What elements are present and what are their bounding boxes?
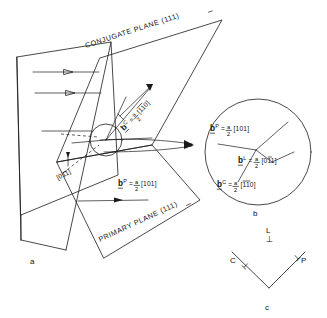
inset-burgers-lock-frac-denominator: 2	[255, 163, 258, 169]
burgers-primary-frac-denominator: 2	[135, 186, 138, 192]
panel-a-label: a	[30, 257, 35, 266]
svg-text:bP =: bP =	[118, 178, 133, 188]
inset-burgers-conjugate-frac-numerator: a	[234, 180, 238, 186]
inset-burgers-lock-label: bL = a 2 [011]	[238, 155, 277, 169]
svg-text:bL =: bL =	[238, 155, 253, 165]
inset-burgers-conjugate-bracket: [110]	[241, 181, 256, 189]
inset-burgers-lock-bracket: [011]	[262, 157, 277, 165]
dislocation-dashed-segment	[61, 134, 98, 137]
inset-burgers-primary-frac-denominator: 2	[227, 131, 230, 137]
inset-burgers-conjugate-frac-denominator: 2	[234, 187, 237, 193]
inset-burgers-primary-frac-numerator: a	[227, 124, 231, 130]
figure-canvas: CONJUGATE PLANE (111) PRIMARY PLANE (111…	[0, 0, 327, 318]
panel-b-group: bP = a 2 [101] bL = a 2 [011]	[205, 99, 311, 218]
inset-burgers-conjugate-label: bC = a 2 [110]	[217, 179, 256, 193]
conjugate-plane-overbar	[209, 11, 213, 12]
panel-c-conjugate-label: C	[230, 256, 236, 265]
rear-plane-crossing-edge-right	[66, 42, 111, 250]
svg-text:bC =: bC =	[217, 179, 232, 189]
panel-c-conjugate-arm	[232, 252, 269, 288]
burgers-primary-arrowhead	[114, 198, 123, 203]
burgers-primary-arrow-line	[78, 200, 148, 201]
direction-label-pointer-head	[66, 152, 70, 158]
panel-c-lock-label: L	[266, 226, 271, 235]
burgers-primary-frac-numerator: a	[135, 179, 139, 185]
burgers-primary-label: bP = a 2 [101]	[118, 178, 157, 192]
conjugate-plane-outline	[57, 20, 222, 162]
panel-c-label: c	[265, 303, 269, 312]
rear-plane-dislocation-lines	[33, 70, 101, 132]
panel-a-group: CONJUGATE PLANE (111) PRIMARY PLANE (111…	[17, 11, 222, 266]
figure-root: CONJUGATE PLANE (111) PRIMARY PLANE (111…	[0, 0, 327, 318]
conjugate-plane-label: CONJUGATE PLANE (111)	[84, 11, 181, 50]
panel-b-label: b	[253, 209, 258, 218]
node-arm-upper-right	[106, 88, 150, 140]
primary-plane-overbar	[187, 204, 191, 206]
inset-burgers-primary-label: bP = a 2 [101]	[210, 123, 249, 137]
inset-burgers-primary-bracket: [101]	[234, 125, 250, 133]
direction-label: [011]	[55, 168, 72, 182]
inset-burgers-lock-frac-numerator: a	[255, 156, 259, 162]
burgers-conjugate-frac-denominator: 2	[135, 116, 142, 122]
burgers-conjugate-label: bC = a 2 [110]	[118, 98, 154, 135]
svg-text:bP =: bP =	[210, 123, 225, 133]
primary-plane-outline	[57, 145, 200, 258]
panel-c-group: ⊥ L C ⊥ P ⊥ c	[230, 226, 306, 312]
inset-leader-arrowhead	[184, 140, 194, 149]
inset-arm-upper-right	[256, 122, 288, 150]
rear-plane-bottom-edge	[21, 240, 66, 250]
rear-plane-crossing-edge-left	[17, 57, 21, 240]
inset-arm-lower-left	[238, 150, 256, 182]
panel-c-lock-symbol: ⊥	[266, 234, 273, 244]
rear-plane-outline	[17, 42, 118, 215]
inset-arm-left	[218, 144, 256, 150]
burgers-primary-bracket: [101]	[141, 180, 157, 188]
